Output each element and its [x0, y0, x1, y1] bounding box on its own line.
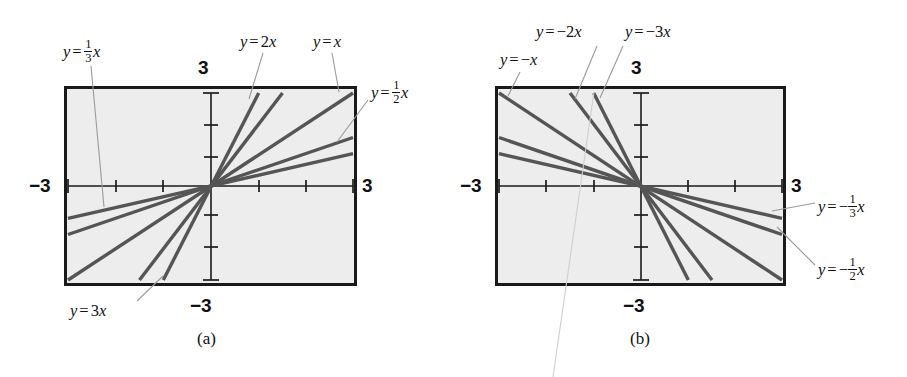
fraction-numerator: 1 — [84, 38, 92, 51]
label-y-equals-neg-3x: y=−3x — [625, 24, 671, 41]
linear-functions-figure: y=13x y=2x y=x y=12x y=3x 3 −3 −3 3 (a) — [0, 0, 907, 377]
fraction-numerator: 1 — [848, 256, 856, 269]
axis-number-a-x-left: −3 — [29, 176, 51, 195]
label-a-3x-coef: 3 — [91, 301, 99, 320]
fraction-denominator: 2 — [848, 269, 856, 283]
fraction-one-half: 12 — [848, 256, 856, 283]
label-b-nhalf-var: x — [857, 260, 864, 279]
label-a-third-var: x — [93, 42, 100, 61]
label-b-nthird-var: x — [857, 197, 864, 216]
label-b-nthird-eq: = — [825, 197, 838, 216]
axis-number-b-y-bottom: −3 — [623, 296, 645, 315]
label-b-nx-var: x — [530, 50, 537, 69]
label-a-half-var: x — [401, 83, 408, 102]
fraction-one-half: 12 — [392, 79, 400, 106]
panel-b: y=−2x y=−3x y=−x y=−13x y=−12x 3 −3 −3 3… — [453, 0, 907, 377]
axis-number-a-y-bottom: −3 — [190, 296, 212, 315]
label-a-half-eq: = — [378, 83, 391, 102]
label-b-nhalf-eq: = — [825, 260, 838, 279]
fraction-denominator: 2 — [392, 92, 400, 106]
axis-number-b-x-right: 3 — [791, 176, 802, 195]
label-b-n2x-coef: 2 — [566, 22, 574, 41]
label-y-equals-x: y=x — [313, 34, 341, 51]
label-a-3x-var: x — [99, 301, 106, 320]
label-a-3x-eq: = — [77, 301, 90, 320]
axis-number-a-y-top: 3 — [198, 58, 209, 77]
axis-number-b-x-left: −3 — [460, 176, 482, 195]
label-b-n3x-sign: − — [646, 22, 655, 41]
fraction-numerator: 1 — [392, 79, 400, 92]
panel-b-caption: (b) — [630, 330, 650, 347]
label-a-x-eq: = — [320, 32, 333, 51]
label-y-equals-2x: y=2x — [240, 34, 276, 51]
label-y-equals-neg-2x: y=−2x — [536, 24, 582, 41]
fraction-denominator: 3 — [848, 206, 856, 220]
label-y-equals-neg-one-half-x: y=−12x — [818, 256, 865, 283]
label-y-equals-one-half-x: y=12x — [371, 79, 408, 106]
leader-half-x — [337, 100, 368, 142]
panel-a-caption: (a) — [197, 330, 216, 347]
label-b-n3x-eq: = — [632, 22, 645, 41]
fraction-one-third: 13 — [84, 38, 92, 65]
label-y-equals-3x: y=3x — [70, 303, 106, 320]
label-a-x-var: x — [334, 32, 341, 51]
fraction-one-third: 13 — [848, 193, 856, 220]
label-b-nthird-sign: − — [839, 197, 848, 216]
label-b-n3x-var: x — [663, 22, 670, 41]
label-a-2x-eq: = — [247, 32, 260, 51]
label-y-equals-one-third-x: y=13x — [63, 38, 100, 65]
label-y-equals-neg-x: y=−x — [500, 52, 537, 69]
label-a-2x-var: x — [269, 32, 276, 51]
label-b-n3x-coef: 3 — [655, 22, 663, 41]
leader-x — [332, 53, 339, 92]
panel-a: y=13x y=2x y=x y=12x y=3x 3 −3 −3 3 (a) — [0, 0, 454, 377]
label-a-2x-coef: 2 — [261, 32, 269, 51]
label-b-n2x-var: x — [574, 22, 581, 41]
label-a-third-eq: = — [70, 42, 83, 61]
label-b-nhalf-sign: − — [839, 260, 848, 279]
leader-third-x — [91, 66, 104, 207]
fraction-denominator: 3 — [84, 51, 92, 65]
label-b-n2x-sign: − — [557, 22, 566, 41]
leader-3x — [137, 276, 163, 301]
axis-number-a-x-right: 3 — [362, 176, 373, 195]
label-b-nx-eq: = — [507, 50, 520, 69]
leader-2x — [249, 53, 263, 99]
fraction-numerator: 1 — [848, 193, 856, 206]
label-b-nx-sign: − — [521, 50, 530, 69]
label-b-n2x-eq: = — [543, 22, 556, 41]
label-y-equals-neg-one-third-x: y=−13x — [818, 193, 865, 220]
axis-number-b-y-top: 3 — [631, 58, 642, 77]
